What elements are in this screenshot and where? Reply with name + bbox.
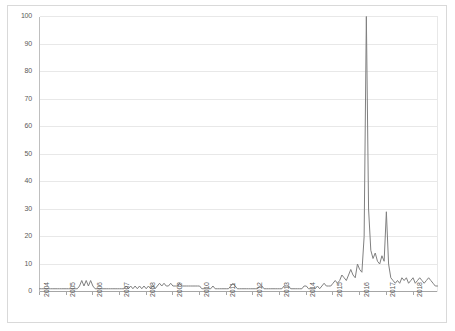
data-series-line [40, 17, 438, 289]
line-chart-plot [0, 0, 455, 331]
gridlines-group [40, 17, 438, 292]
chart-container: 0102030405060708090100 20042005200620072… [0, 0, 455, 331]
